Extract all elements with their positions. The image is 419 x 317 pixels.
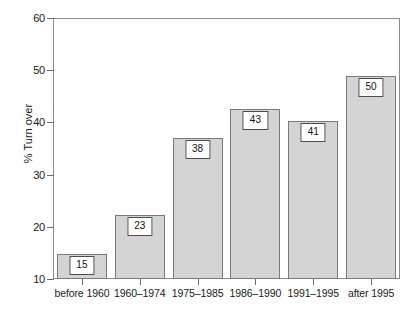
bar-slot: 41 xyxy=(288,18,338,279)
bar[interactable] xyxy=(230,109,280,279)
bar[interactable] xyxy=(346,76,396,279)
bar-slot: 43 xyxy=(230,18,280,279)
y-axis-tick-label: 40 xyxy=(19,117,45,128)
x-axis-tick xyxy=(255,279,256,285)
bar-value-label: 50 xyxy=(359,78,384,97)
x-axis-tick xyxy=(140,279,141,285)
y-axis-tick-label: 50 xyxy=(19,65,45,76)
bar-slot: 38 xyxy=(173,18,223,279)
bar-value-label: 41 xyxy=(301,123,326,142)
bar-value-label: 23 xyxy=(127,217,152,236)
y-axis-title: % Turn over xyxy=(23,89,34,179)
x-axis-category-label: after 1995 xyxy=(334,288,408,299)
y-axis-tick-label: 60 xyxy=(19,13,45,24)
bars-layer: 152338434150 xyxy=(53,18,400,279)
bar-value-label: 43 xyxy=(243,111,268,130)
bar-slot: 50 xyxy=(346,18,396,279)
bar-chart: % Turn over 102030405060 152338434150 be… xyxy=(0,0,419,317)
bar-value-label: 38 xyxy=(185,140,210,159)
bar-slot: 15 xyxy=(57,18,107,279)
bar-value-label: 15 xyxy=(69,256,94,275)
y-axis-tick-label: 20 xyxy=(19,222,45,233)
x-axis-tick xyxy=(371,279,372,285)
y-axis-tick-label: 10 xyxy=(19,274,45,285)
y-axis-tick-label: 30 xyxy=(19,170,45,181)
bar[interactable] xyxy=(288,121,338,279)
bar[interactable] xyxy=(173,138,223,279)
x-axis-tick xyxy=(198,279,199,285)
bar-slot: 23 xyxy=(115,18,165,279)
y-axis-tick xyxy=(47,279,54,280)
x-axis-tick xyxy=(313,279,314,285)
x-axis-tick xyxy=(82,279,83,285)
